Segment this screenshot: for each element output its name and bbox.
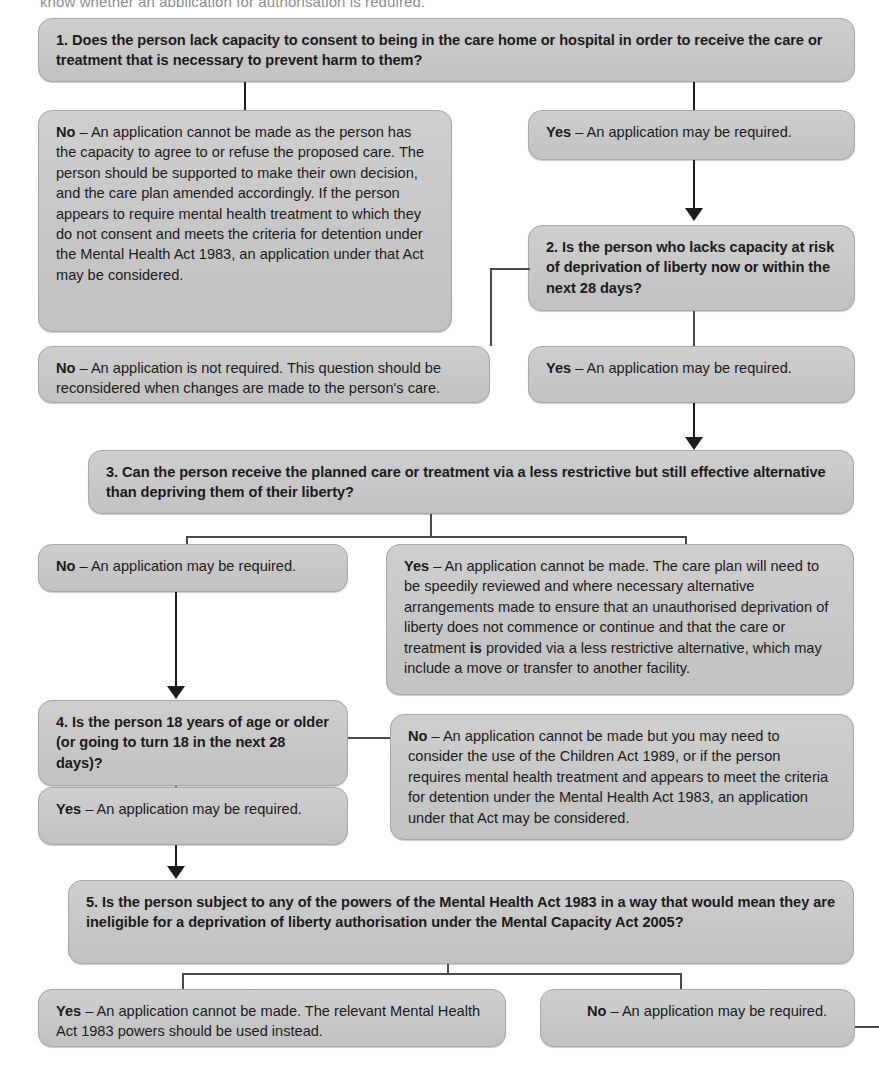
- node-q4-yes-text: An application may be required.: [97, 801, 302, 817]
- node-q4-no: No – An application cannot be made but y…: [390, 714, 854, 840]
- node-q5-no-dash: –: [606, 1003, 621, 1019]
- arrow-q2yes-to-q3: [685, 437, 703, 450]
- node-q3-no-dash: –: [75, 558, 90, 574]
- node-q5-yes-dash: –: [81, 1003, 96, 1019]
- node-q4-yes: Yes – An application may be required.: [38, 787, 348, 845]
- connector-q1-to-q1yes: [693, 82, 695, 110]
- intro-cut-off-line: know whether an application for authoris…: [40, 0, 740, 7]
- node-question-1-text: 1. Does the person lack capacity to cons…: [56, 32, 822, 68]
- node-question-4-text: 4. Is the person 18 years of age or olde…: [56, 714, 329, 771]
- connector-q2-to-q2yes: [693, 311, 695, 347]
- node-q2-yes-lead: Yes: [546, 360, 571, 376]
- arrow-q4yes-to-q5: [167, 866, 185, 879]
- node-q1-yes-lead: Yes: [546, 124, 571, 140]
- node-q1-no-text: An application cannot be made as the per…: [56, 124, 424, 283]
- node-q1-no-lead: No: [56, 124, 75, 140]
- connector-q2-no-elbow-horizontal: [490, 268, 530, 270]
- node-q5-yes: Yes – An application cannot be made. The…: [38, 989, 506, 1047]
- connector-q5-branch-bar: [182, 973, 681, 975]
- arrow-q3no-to-q4: [167, 686, 185, 699]
- connector-q4-no-elbow: [348, 737, 390, 739]
- node-q4-yes-lead: Yes: [56, 801, 81, 817]
- node-q3-yes-emphasis: is: [470, 640, 482, 656]
- node-q1-no: No – An application cannot be made as th…: [38, 110, 452, 332]
- node-q5-no: No – An application may be required.: [540, 989, 855, 1047]
- connector-q1yes-to-q2: [693, 160, 695, 211]
- node-q2-yes: Yes – An application may be required.: [528, 346, 855, 403]
- node-q3-no: No – An application may be required.: [38, 544, 348, 592]
- connector-q3-branch-bar: [186, 536, 686, 538]
- node-question-2-text: 2. Is the person who lacks capacity at r…: [546, 239, 834, 296]
- node-q3-yes-lead: Yes: [404, 558, 429, 574]
- node-q2-yes-dash: –: [571, 360, 586, 376]
- connector-q3-branch-stem: [430, 514, 432, 537]
- arrow-q1yes-to-q2: [685, 208, 703, 221]
- node-q2-no-text: An application is not required. This que…: [56, 360, 441, 396]
- node-q5-no-text: An application may be required.: [622, 1003, 827, 1019]
- node-q2-yes-text: An application may be required.: [587, 360, 792, 376]
- node-question-5: 5. Is the person subject to any of the p…: [68, 880, 854, 964]
- node-question-2: 2. Is the person who lacks capacity at r…: [528, 225, 855, 311]
- node-q5-yes-text: An application cannot be made. The relev…: [56, 1003, 480, 1039]
- connector-q5-to-q5yes: [182, 973, 184, 989]
- node-q4-yes-dash: –: [81, 801, 96, 817]
- node-q5-no-lead: No: [587, 1003, 606, 1019]
- node-question-4: 4. Is the person 18 years of age or olde…: [38, 700, 348, 786]
- connector-q2-no-elbow-vertical: [490, 268, 492, 346]
- connector-q5-to-q5no: [680, 973, 682, 989]
- node-question-3: 3. Can the person receive the planned ca…: [88, 450, 854, 514]
- node-q1-no-dash: –: [75, 124, 90, 140]
- node-q3-no-lead: No: [56, 558, 75, 574]
- node-q1-yes-dash: –: [571, 124, 586, 140]
- connector-q1-to-q1no: [244, 82, 246, 110]
- node-question-1: 1. Does the person lack capacity to cons…: [38, 18, 855, 82]
- node-q5-yes-lead: Yes: [56, 1003, 81, 1019]
- flowchart-canvas: know whether an application for authoris…: [0, 0, 879, 1073]
- node-q4-no-dash: –: [427, 728, 442, 744]
- node-q4-no-lead: No: [408, 728, 427, 744]
- connector-q3no-to-q4: [175, 592, 177, 689]
- node-q1-yes-text: An application may be required.: [587, 124, 792, 140]
- node-q2-no-lead: No: [56, 360, 75, 376]
- node-q4-no-text: An application cannot be made but you ma…: [408, 728, 828, 826]
- connector-q5no-exit-right: [855, 1026, 879, 1028]
- node-question-3-text: 3. Can the person receive the planned ca…: [106, 464, 826, 500]
- node-q1-yes: Yes – An application may be required.: [528, 110, 855, 160]
- node-question-5-text: 5. Is the person subject to any of the p…: [86, 894, 835, 930]
- node-q3-no-text: An application may be required.: [91, 558, 296, 574]
- node-q2-no-dash: –: [75, 360, 90, 376]
- node-q3-yes: Yes – An application cannot be made. The…: [386, 544, 854, 695]
- node-q3-yes-dash: –: [429, 558, 444, 574]
- node-q2-no: No – An application is not required. Thi…: [38, 346, 490, 403]
